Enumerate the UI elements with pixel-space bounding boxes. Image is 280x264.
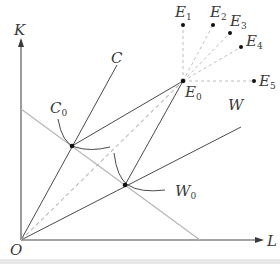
c0-label: C0 [50, 99, 67, 118]
ray-w [21, 127, 241, 240]
budget-line [21, 109, 200, 240]
e3-label: E3 [229, 12, 247, 31]
k-axis-label: K [13, 21, 26, 39]
point-e2 [211, 23, 215, 27]
bottom-border [0, 259, 280, 264]
isoquant-c0 [58, 119, 110, 150]
e4-label: E4 [245, 32, 263, 51]
w0-e0-line [125, 81, 183, 185]
k-axis-arrow-icon [18, 38, 24, 47]
point-e1 [181, 23, 185, 27]
point-e5 [252, 79, 256, 83]
ray-c [21, 65, 117, 240]
point-w0 [123, 183, 128, 188]
l-axis-arrow-icon [255, 237, 264, 243]
ray-w-label: W [228, 96, 245, 114]
point-e3 [228, 31, 232, 35]
e0-e2-ray [183, 25, 213, 81]
e1-label: E1 [174, 3, 192, 22]
diagonal-o-e0 [21, 81, 183, 240]
e0-label: E0 [184, 83, 202, 102]
point-e4 [239, 45, 243, 49]
c0-e0-line [72, 81, 183, 146]
l-axis-label: L [266, 232, 277, 250]
w0-label: W0 [175, 182, 196, 201]
point-c0 [70, 144, 75, 149]
factor-endowment-diagram: K L O C W C0 W0 E0 E1 E2 E3 E4 E5 [0, 0, 280, 264]
origin-label: O [10, 241, 22, 259]
e0-e3-ray [183, 33, 230, 81]
ray-c-label: C [111, 49, 123, 67]
e5-label: E5 [258, 72, 276, 91]
e-rays [183, 25, 254, 81]
e2-label: E2 [209, 3, 227, 22]
axes [18, 38, 264, 243]
